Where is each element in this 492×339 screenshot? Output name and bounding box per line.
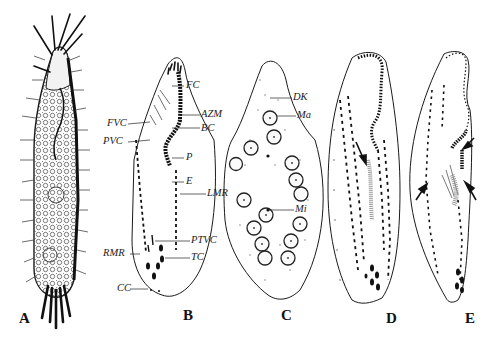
panel-d-drawing <box>328 52 400 303</box>
panel-c-drawing <box>224 61 323 299</box>
label-cc: CC <box>117 282 131 293</box>
label-mi: Mi <box>295 203 307 214</box>
panel-label-c: C <box>281 307 292 324</box>
panel-a-drawing <box>20 14 90 328</box>
label-tc: TC <box>191 251 204 262</box>
label-azm: AZM <box>201 108 222 119</box>
panel-label-d: D <box>386 310 397 327</box>
label-pvc: PVC <box>103 135 123 146</box>
label-rmr: RMR <box>103 247 125 258</box>
label-e: E <box>186 175 192 186</box>
label-ma: Ma <box>297 109 311 120</box>
label-bc: BC <box>201 122 214 133</box>
panel-label-b: B <box>183 307 193 324</box>
label-p: P <box>186 151 192 162</box>
figure: FC AZM BC FVC PVC P E LMR PTVC RMR TC CC… <box>0 0 492 339</box>
label-lmr: LMR <box>207 187 228 198</box>
panel-label-a: A <box>19 310 30 327</box>
label-ptvc: PTVC <box>191 234 217 245</box>
panel-label-e: E <box>465 310 475 327</box>
label-dk: DK <box>293 91 308 102</box>
label-fc: FC <box>186 79 199 90</box>
label-fvc: FVC <box>107 117 127 128</box>
panel-e-drawing <box>410 52 476 303</box>
figure-svg <box>0 0 492 339</box>
